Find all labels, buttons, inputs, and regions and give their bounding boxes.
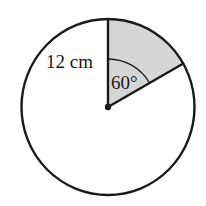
diagram-canvas: 12 cm 60° (0, 0, 206, 206)
center-point (105, 104, 111, 110)
angle-label: 60° (111, 72, 138, 93)
radius-label: 12 cm (46, 51, 93, 72)
circle-diagram: 12 cm 60° (0, 0, 206, 206)
shaded-sector (108, 19, 184, 107)
